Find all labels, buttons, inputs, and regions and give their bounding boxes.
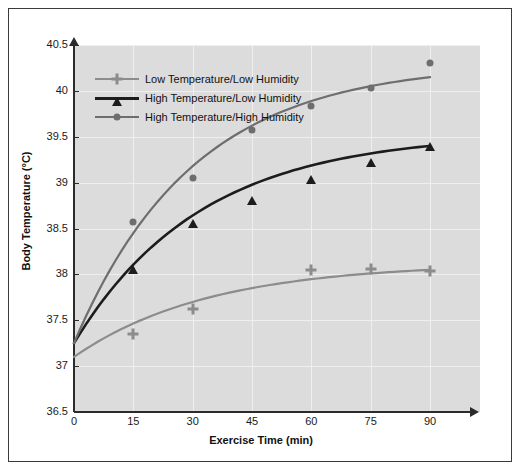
data-point-cross — [191, 304, 194, 315]
chart-page: 36.53737.53838.53939.54040.5 01530456075… — [0, 0, 522, 472]
data-point-cross — [310, 264, 313, 275]
data-point-circle — [130, 219, 137, 226]
data-point-circle — [367, 85, 374, 92]
data-point-triangle — [366, 158, 376, 167]
series-line — [74, 270, 430, 357]
data-point-circle — [189, 175, 196, 182]
data-point-triangle — [128, 265, 138, 274]
legend-label: High Temperature/High Humidity — [145, 111, 304, 123]
legend-marker-triangle — [112, 97, 122, 106]
legend-marker-circle — [114, 113, 121, 120]
legend-item[interactable]: High Temperature/Low Humidity — [95, 88, 345, 107]
data-point-triangle — [425, 142, 435, 151]
data-point-triangle — [306, 175, 316, 184]
chart-legend: Low Temperature/Low HumidityHigh Tempera… — [95, 69, 345, 126]
legend-label: Low Temperature/Low Humidity — [145, 73, 299, 85]
legend-item[interactable]: Low Temperature/Low Humidity — [95, 69, 345, 88]
legend-item[interactable]: High Temperature/High Humidity — [95, 107, 345, 126]
legend-swatch — [95, 110, 139, 124]
y-axis-title: Body Temperature (°C) — [20, 121, 32, 301]
legend-marker-cross — [116, 73, 119, 84]
data-point-circle — [249, 127, 256, 134]
data-point-cross — [132, 329, 135, 340]
series-line — [74, 146, 430, 343]
data-point-cross — [369, 263, 372, 274]
legend-swatch — [95, 72, 139, 86]
data-point-triangle — [247, 196, 257, 205]
x-axis-title: Exercise Time (min) — [0, 434, 522, 446]
data-point-triangle — [188, 219, 198, 228]
legend-swatch — [95, 91, 139, 105]
data-point-circle — [427, 60, 434, 67]
legend-label: High Temperature/Low Humidity — [145, 92, 301, 104]
scatter-chart: 36.53737.53838.53939.54040.5 01530456075… — [0, 0, 522, 472]
data-point-cross — [429, 265, 432, 276]
